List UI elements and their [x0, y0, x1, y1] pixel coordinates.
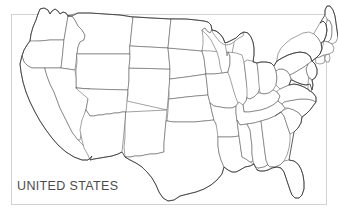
state-arizona[interactable]: [80, 110, 126, 160]
map-title-label: UNITED STATES: [17, 179, 118, 193]
state-south-dakota[interactable]: [129, 46, 170, 69]
state-colorado[interactable]: [127, 68, 170, 110]
state-ohio[interactable]: [257, 62, 277, 94]
state-minnesota[interactable]: [168, 19, 212, 51]
state-wyoming[interactable]: [76, 54, 130, 90]
state-rhode-island[interactable]: [325, 54, 330, 62]
state-oregon[interactable]: [22, 40, 64, 68]
state-boundaries: [20, 6, 338, 201]
state-washington[interactable]: [30, 8, 68, 41]
state-nebraska[interactable]: [168, 48, 206, 79]
map-canvas: UNITED STATES: [0, 0, 338, 212]
state-oklahoma[interactable]: [167, 95, 214, 122]
state-north-dakota[interactable]: [130, 17, 171, 48]
state-new-mexico[interactable]: [124, 110, 167, 157]
